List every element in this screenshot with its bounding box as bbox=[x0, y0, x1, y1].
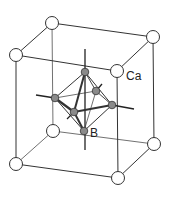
b-atom-back bbox=[92, 87, 100, 95]
edge-bottom-right bbox=[118, 144, 154, 178]
edge-top-left bbox=[16, 23, 52, 55]
edge-back-bottom bbox=[53, 131, 154, 144]
edge-top-right bbox=[117, 37, 153, 71]
oct-edge-left-bottom bbox=[55, 98, 84, 131]
cabr-unit-cell-svg: Ca B bbox=[0, 0, 176, 197]
edge-front-top bbox=[16, 55, 117, 71]
b-atom-bottom bbox=[80, 127, 88, 135]
b-atom-top bbox=[81, 68, 89, 76]
label-b: B bbox=[90, 126, 98, 140]
ca-atom-top-back-left bbox=[46, 17, 59, 30]
ca-atom-top-front-right bbox=[111, 65, 124, 78]
b-atom-left bbox=[51, 94, 59, 102]
b-atom-right bbox=[108, 101, 116, 109]
octahedron-edges bbox=[55, 72, 112, 131]
edge-back-right bbox=[153, 37, 154, 144]
crystal-structure-diagram: Ca B bbox=[0, 0, 176, 197]
edge-back-top bbox=[52, 23, 153, 37]
ca-atom-bottom-front-right bbox=[112, 172, 125, 185]
edge-back-left bbox=[52, 23, 53, 131]
ca-atom-bottom-back-right bbox=[148, 138, 161, 151]
b-atom-front bbox=[70, 108, 78, 116]
ca-atom-top-front-left bbox=[10, 49, 23, 62]
edge-front-right bbox=[117, 71, 118, 178]
oct-edge-top-front bbox=[74, 72, 85, 112]
edge-bottom-left bbox=[16, 131, 53, 164]
ca-atom-bottom-front-left bbox=[10, 158, 23, 171]
edge-front-bottom bbox=[16, 164, 118, 178]
ca-atom-bottom-back-left bbox=[47, 125, 60, 138]
label-ca: Ca bbox=[126, 69, 142, 83]
ca-atom-top-back-right bbox=[147, 31, 160, 44]
